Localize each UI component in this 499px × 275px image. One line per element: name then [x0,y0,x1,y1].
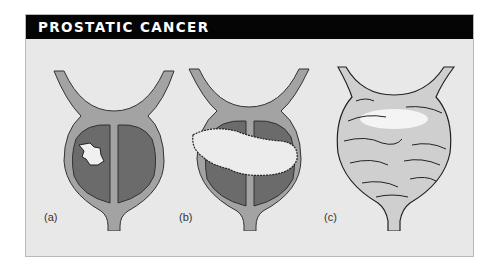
prostate-diagram-c [326,61,466,231]
figure-header: PROSTATIC CANCER [26,15,473,39]
panel-label-a: (a) [44,211,57,223]
panel-label-c: (c) [324,211,337,223]
panel-c: (c) [326,61,466,231]
gland-outline-a [54,71,174,231]
prostate-diagram-a [46,61,186,231]
panel-b: (b) [181,61,321,231]
figure-title: PROSTATIC CANCER [38,19,209,35]
highlight-c [360,109,428,129]
prostate-diagram-b [181,61,321,231]
panel-a: (a) [46,61,186,231]
figure: PROSTATIC CANCER (a) (b) [25,14,474,257]
panel-label-b: (b) [179,211,192,223]
gland-outline-c [337,67,454,231]
